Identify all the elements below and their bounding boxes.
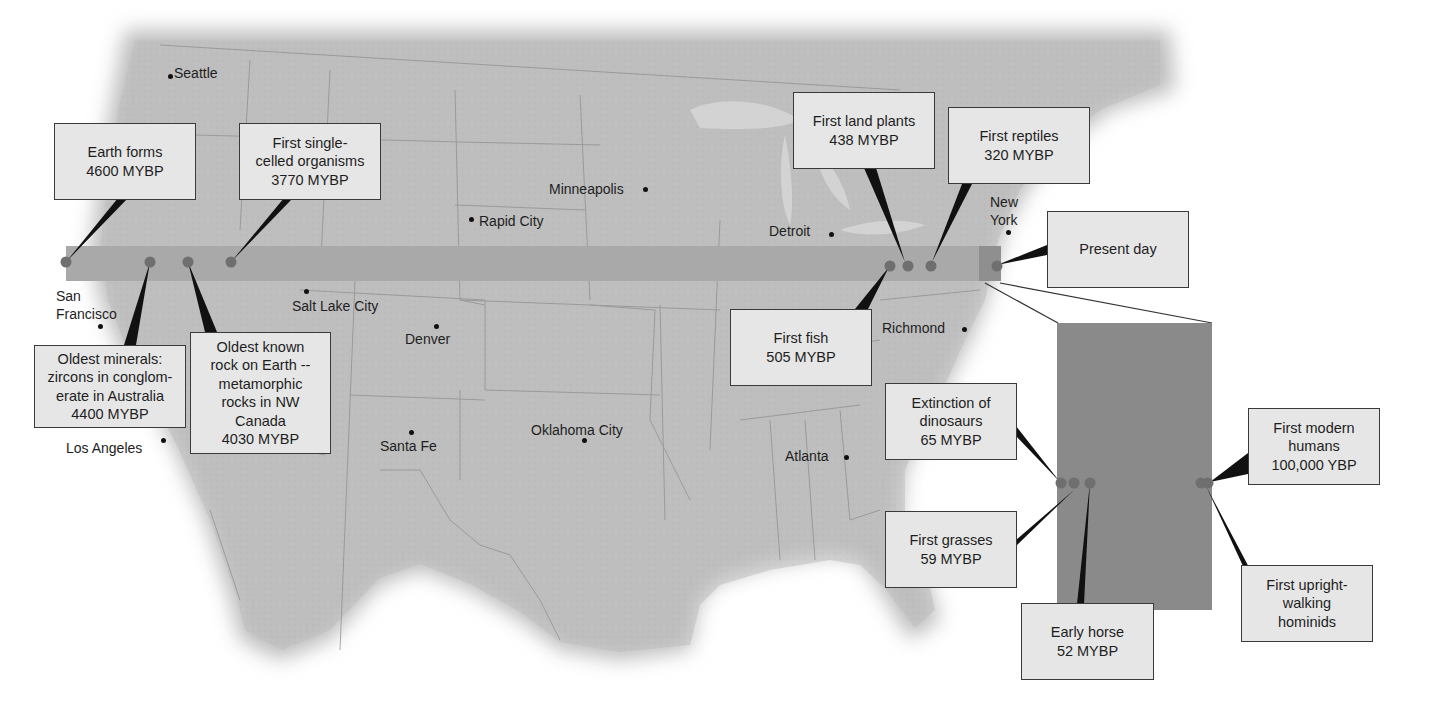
event-dot-first-fish bbox=[885, 261, 896, 272]
callout-upright-walking-hominids: First upright- walking hominids bbox=[1241, 565, 1373, 642]
callout-first-modern-humans: First modern humans 100,000 YBP bbox=[1248, 408, 1380, 485]
city-label-new-york: New York bbox=[990, 193, 1018, 229]
city-label-detroit: Detroit bbox=[769, 222, 810, 240]
callout-dinosaur-extinction: Extinction of dinosaurs 65 MYBP bbox=[885, 383, 1017, 460]
city-dot-santa-fe bbox=[409, 430, 414, 435]
city-dot-denver bbox=[434, 324, 439, 329]
city-dot-seattle bbox=[168, 74, 173, 79]
event-dot-oldest-rock bbox=[183, 257, 194, 268]
city-label-santa-fe: Santa Fe bbox=[380, 437, 437, 455]
city-label-san-francisco: San Francisco bbox=[56, 287, 117, 323]
callout-earth-forms: Earth forms 4600 MYBP bbox=[54, 123, 196, 200]
city-label-atlanta: Atlanta bbox=[785, 447, 829, 465]
city-dot-rapid-city bbox=[469, 217, 474, 222]
zoom-line-right bbox=[1000, 283, 1212, 323]
event-dot-modern-humans bbox=[1203, 478, 1214, 489]
event-dot-earth-forms bbox=[61, 257, 72, 268]
event-dot-land-plants bbox=[903, 261, 914, 272]
event-dot-early-horse bbox=[1085, 478, 1096, 489]
city-label-richmond: Richmond bbox=[882, 319, 945, 337]
event-dot-reptiles bbox=[926, 261, 937, 272]
callout-first-fish: First fish 505 MYBP bbox=[730, 309, 872, 386]
city-label-oklahoma-city: Oklahoma City bbox=[531, 421, 623, 439]
callout-first-land-plants: First land plants 438 MYBP bbox=[793, 92, 935, 169]
city-dot-atlanta bbox=[844, 455, 849, 460]
city-label-seattle: Seattle bbox=[174, 64, 218, 82]
city-label-denver: Denver bbox=[405, 330, 450, 348]
geologic-timeline-map: Seattle San Francisco Los Angeles Salt L… bbox=[0, 0, 1443, 713]
callout-first-reptiles: First reptiles 320 MYBP bbox=[948, 107, 1090, 184]
city-dot-new-york bbox=[1006, 230, 1011, 235]
city-dot-los-angeles bbox=[161, 438, 166, 443]
callout-single-celled-organisms: First single- celled organisms 3770 MYBP bbox=[239, 123, 381, 200]
event-dot-single-celled bbox=[226, 257, 237, 268]
city-dot-detroit bbox=[829, 232, 834, 237]
callout-present-day: Present day bbox=[1047, 211, 1189, 288]
callout-oldest-minerals: Oldest minerals: zircons in conglom- era… bbox=[34, 345, 186, 428]
city-label-minneapolis: Minneapolis bbox=[549, 180, 624, 198]
event-dot-first-grasses bbox=[1069, 478, 1080, 489]
zoom-line-left bbox=[985, 283, 1058, 323]
callout-oldest-rock: Oldest known rock on Earth -- metamorphi… bbox=[190, 332, 331, 454]
zoom-panel bbox=[1057, 323, 1212, 610]
city-dot-san-francisco bbox=[98, 324, 103, 329]
callout-first-grasses: First grasses 59 MYBP bbox=[885, 511, 1017, 588]
city-label-los-angeles: Los Angeles bbox=[66, 439, 142, 457]
callout-early-horse: Early horse 52 MYBP bbox=[1021, 603, 1154, 680]
event-dot-oldest-minerals bbox=[145, 257, 156, 268]
event-dot-dinosaur-extinction bbox=[1056, 478, 1067, 489]
city-dot-salt-lake-city bbox=[304, 289, 309, 294]
city-dot-minneapolis bbox=[643, 187, 648, 192]
city-dot-richmond bbox=[962, 327, 967, 332]
event-dot-present-day bbox=[992, 261, 1003, 272]
city-label-rapid-city: Rapid City bbox=[479, 212, 544, 230]
city-label-salt-lake-city: Salt Lake City bbox=[292, 297, 378, 315]
timeline-band bbox=[66, 246, 1001, 281]
